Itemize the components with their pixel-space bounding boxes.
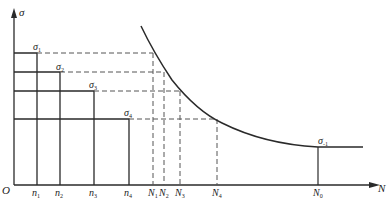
sigma4-label: σ4 bbox=[124, 107, 132, 119]
sigma-minus1-label: σ-1 bbox=[318, 135, 328, 147]
sn-curve bbox=[141, 26, 363, 147]
n2-label: n2 bbox=[55, 187, 63, 199]
n-tick-labels: n1 n2 n3 n4 bbox=[32, 187, 132, 199]
stress-blocks bbox=[14, 53, 129, 185]
origin-label: O bbox=[2, 184, 10, 196]
N1-label: N1 bbox=[147, 187, 158, 199]
sn-diagram: σ N O σ1 σ2 σ3 σ4 σ-1 n1 n2 n3 n4 N1 N2 … bbox=[0, 0, 387, 203]
sigma1-label: σ1 bbox=[33, 41, 41, 53]
N3-label: N3 bbox=[174, 187, 185, 199]
sigma2-label: σ2 bbox=[56, 61, 64, 73]
sigma3-label: σ3 bbox=[89, 79, 97, 91]
N2-label: N2 bbox=[158, 187, 169, 199]
N-tick-labels: N1 N2 N3 N4 N0 bbox=[147, 187, 323, 199]
block-sigma3 bbox=[14, 91, 94, 185]
N4-label: N4 bbox=[211, 187, 222, 199]
block-sigma4 bbox=[14, 119, 129, 185]
x-axis-label: N bbox=[377, 182, 386, 194]
n1-label: n1 bbox=[32, 187, 40, 199]
y-axis-arrow-icon bbox=[11, 8, 17, 18]
N0-label: N0 bbox=[312, 187, 323, 199]
n4-label: n4 bbox=[124, 187, 132, 199]
y-axis-label: σ bbox=[19, 6, 25, 18]
n3-label: n3 bbox=[89, 187, 97, 199]
